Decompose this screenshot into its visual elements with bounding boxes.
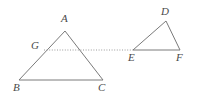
segment-df	[166, 21, 180, 50]
vertex-label-b: B	[13, 81, 20, 93]
segment-ab	[19, 31, 65, 80]
vertex-label-g: G	[31, 39, 39, 51]
vertex-label-d: D	[160, 5, 169, 17]
vertex-label-e: E	[127, 51, 135, 63]
vertex-label-c: C	[98, 81, 106, 93]
vertex-label-f: F	[175, 51, 183, 63]
geometry-figure: A B C D E F G	[0, 0, 207, 101]
segment-de	[133, 21, 166, 50]
segment-ac	[65, 31, 103, 80]
triangle-def	[133, 21, 180, 50]
vertex-label-a: A	[60, 12, 68, 24]
